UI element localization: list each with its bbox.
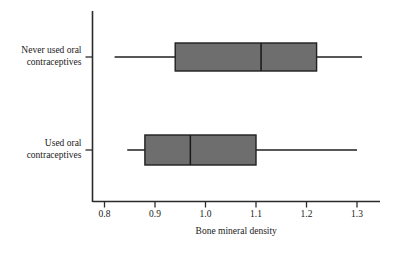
category-label-line2: contraceptives (21, 57, 81, 69)
box-rect (145, 135, 256, 165)
category-label-used: Used oral contraceptives (27, 138, 82, 161)
x-tick-label-1.2: 1.2 (301, 209, 313, 219)
box-used (127, 135, 357, 165)
category-label-line2: contraceptives (27, 150, 82, 162)
category-label-line1: Never used oral (21, 45, 81, 57)
x-tick-label-0.9: 0.9 (149, 209, 161, 219)
boxplot-figure: Never used oral contraceptives Used oral… (0, 0, 398, 253)
x-axis-ticks (105, 202, 358, 208)
box-plot-series (115, 43, 362, 165)
box-rect (175, 43, 316, 71)
x-axis-title: Bone mineral density (37, 226, 398, 236)
x-tick-label-1.1: 1.1 (250, 209, 262, 219)
box-never-used (115, 43, 362, 71)
x-tick-label-1.3: 1.3 (351, 209, 363, 219)
axis-lines (93, 11, 381, 202)
category-label-never-used: Never used oral contraceptives (21, 45, 81, 68)
x-tick-label-0.8: 0.8 (99, 209, 111, 219)
category-label-line1: Used oral (27, 138, 82, 150)
y-axis-ticks (86, 57, 93, 150)
x-tick-label-1.0: 1.0 (200, 209, 212, 219)
